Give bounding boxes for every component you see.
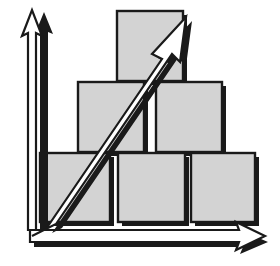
- box-middle-right: [156, 82, 222, 152]
- x-axis: [30, 222, 268, 254]
- growth-illustration: Growth arrow rising over stacked boxes U…: [0, 0, 280, 266]
- box-bottom-mid: [118, 153, 185, 222]
- box-bottom-right: [191, 153, 255, 222]
- growth-chart-graphic: Growth arrow rising over stacked boxes U…: [0, 0, 280, 266]
